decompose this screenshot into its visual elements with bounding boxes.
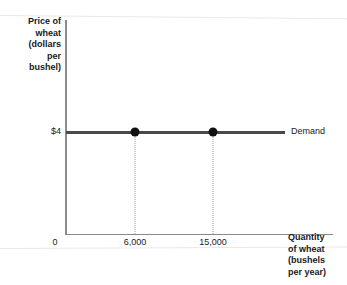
data-point-6000 — [131, 128, 140, 137]
x-axis-title-line-4: per year) — [288, 267, 326, 277]
y-tick-label-4: $4 — [43, 126, 61, 136]
y-axis-line — [65, 20, 67, 235]
dropline-6000 — [135, 135, 136, 234]
x-tick-label-origin: 0 — [52, 237, 57, 247]
x-tick-label-6000: 6,000 — [124, 237, 147, 247]
x-axis-title: Quantity of wheat (bushels per year) — [288, 232, 346, 278]
x-axis-title-line-1: Quantity — [288, 232, 325, 242]
data-point-15000 — [209, 128, 218, 137]
x-tick-label-15000: 15,000 — [199, 237, 227, 247]
x-axis-title-line-3: (bushels — [288, 255, 325, 265]
demand-curve-figure: Price of wheat (dollars per bushel) Quan… — [0, 0, 347, 285]
y-axis-title-line-4: per — [47, 51, 61, 61]
y-axis-title: Price of wheat (dollars per bushel) — [6, 16, 61, 74]
y-axis-title-line-1: Price of — [28, 16, 61, 26]
x-axis-title-line-2: of wheat — [288, 244, 325, 254]
demand-series-label: Demand — [291, 126, 325, 136]
y-axis-title-line-3: (dollars — [28, 39, 61, 49]
y-axis-title-line-5: bushel) — [29, 62, 61, 72]
y-axis-title-line-2: wheat — [35, 28, 61, 38]
demand-curve-line — [66, 131, 285, 134]
dropline-15000 — [213, 135, 214, 234]
